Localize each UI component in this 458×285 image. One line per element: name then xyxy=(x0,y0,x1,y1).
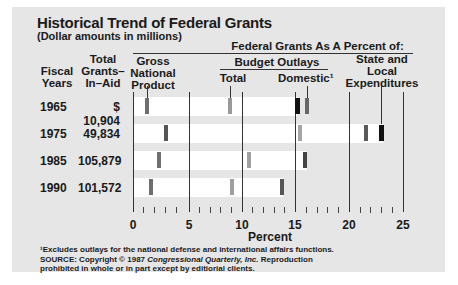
minor-tick xyxy=(327,207,328,213)
marker-gnp-1990 xyxy=(149,179,153,195)
col-budget-outlays: Budget Outlays xyxy=(222,56,332,68)
minor-tick xyxy=(143,207,144,213)
source-line-2: prohibited in whole or in part except by… xyxy=(40,264,255,274)
marker-domestic-1975 xyxy=(364,125,368,141)
pointer-gnp xyxy=(147,86,148,98)
gridline-0 xyxy=(133,92,134,212)
marker-total-1985 xyxy=(247,152,251,168)
row-band-1990 xyxy=(133,178,283,197)
row-band-1965 xyxy=(133,97,297,116)
minor-tick xyxy=(210,207,211,213)
row-year: 1975 xyxy=(40,127,67,141)
gridline-20 xyxy=(349,92,350,212)
minor-tick xyxy=(154,207,155,213)
minor-tick xyxy=(370,207,371,213)
col-state-local: State and Local Expenditures xyxy=(345,53,419,89)
pointer-domestic xyxy=(307,86,308,98)
tick-label: 20 xyxy=(339,218,359,232)
marker-state-local-1965 xyxy=(295,98,300,114)
marker-gnp-1965 xyxy=(145,98,149,114)
marker-total-1965 xyxy=(228,98,232,114)
row-year: 1985 xyxy=(40,154,67,168)
pointer-state-local xyxy=(381,86,382,124)
minor-tick xyxy=(381,207,382,213)
minor-tick xyxy=(176,207,177,213)
minor-tick xyxy=(231,207,232,213)
minor-tick xyxy=(284,207,285,213)
marker-gnp-1975 xyxy=(164,125,168,141)
group-header: Federal Grants As A Percent of: xyxy=(200,40,435,52)
row-amount: 105,879 xyxy=(78,154,120,168)
gridline-25 xyxy=(403,92,404,212)
row-band-1975 xyxy=(133,124,383,143)
minor-tick xyxy=(199,207,200,213)
pointer-total xyxy=(230,86,231,98)
minor-tick xyxy=(274,207,275,213)
col-budget-total: Total xyxy=(218,72,248,84)
footnote: ¹Excludes outlays for the national defen… xyxy=(40,245,334,255)
x-axis-label: Percent xyxy=(248,230,292,244)
gridline-5 xyxy=(189,92,190,212)
minor-tick xyxy=(165,207,166,213)
col-gnp: Gross National Product xyxy=(124,55,182,91)
marker-total-1975 xyxy=(298,125,302,141)
row-year: 1990 xyxy=(40,181,67,195)
col-fiscal-years: Fiscal Years xyxy=(32,65,82,89)
row-amount: $ 10,904 xyxy=(78,100,120,128)
col-total-grants: Total Grants– In–Aid xyxy=(78,53,128,89)
tick-label: 5 xyxy=(179,218,199,232)
col-budget-domestic: Domestic¹ xyxy=(278,72,333,84)
marker-domestic-1985 xyxy=(303,152,307,168)
tick-label: 0 xyxy=(123,218,143,232)
gridline-10 xyxy=(242,92,243,212)
minor-tick xyxy=(338,207,339,213)
budget-outlays-rule xyxy=(220,69,328,70)
minor-tick xyxy=(306,207,307,213)
marker-domestic-1990 xyxy=(280,179,284,195)
row-amount: 49,834 xyxy=(78,127,120,141)
minor-tick xyxy=(263,207,264,213)
minor-tick xyxy=(220,207,221,213)
minor-tick xyxy=(392,207,393,213)
minor-tick xyxy=(317,207,318,213)
minor-tick xyxy=(360,207,361,213)
row-year: 1965 xyxy=(40,100,67,114)
minor-tick xyxy=(252,207,253,213)
marker-gnp-1985 xyxy=(157,152,161,168)
chart-subtitle: (Dollar amounts in millions) xyxy=(37,30,182,42)
marker-domestic-1965 xyxy=(305,98,309,114)
marker-state-local-1975 xyxy=(379,125,384,141)
marker-total-1990 xyxy=(230,179,234,195)
chart-title: Historical Trend of Federal Grants xyxy=(37,14,272,31)
tick-label: 25 xyxy=(393,218,413,232)
row-amount: 101,572 xyxy=(78,181,120,195)
